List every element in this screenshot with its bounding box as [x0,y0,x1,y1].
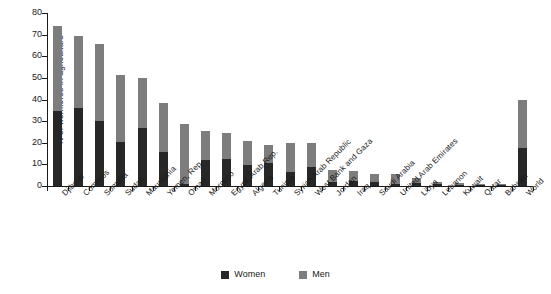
y-tick-label: 60 [22,51,42,60]
bar-segment-women[interactable] [159,152,168,186]
bar-group[interactable] [286,143,295,186]
bar-group[interactable] [201,131,210,186]
stacked-bar-chart: % of workforce in agriculture 0102030405… [0,0,551,294]
legend-label: Men [312,270,330,279]
bar-group[interactable] [95,44,104,186]
bar-segment-women[interactable] [243,165,252,186]
x-tick-mark [174,187,175,191]
bar-segment-men[interactable] [264,145,273,163]
bar-group[interactable] [455,183,464,186]
x-tick-mark [470,187,471,191]
bar-segment-men[interactable] [243,141,252,166]
bar-segment-women[interactable] [201,160,210,186]
bar-group[interactable] [518,100,527,187]
legend-color-swatch [221,271,229,279]
bar-group[interactable] [74,36,83,186]
legend-label: Women [234,270,265,279]
bar-segment-women[interactable] [264,163,273,186]
bar-group[interactable] [370,174,379,186]
bar-segment-women[interactable] [138,128,147,186]
y-tick-label-wrap: 30 [18,121,42,122]
bar-segment-women[interactable] [455,185,464,186]
bar-segment-men[interactable] [222,133,231,159]
bar-group[interactable] [307,143,316,186]
x-tick-mark [406,187,407,191]
x-tick-mark [68,187,69,191]
bar-segment-men[interactable] [370,174,379,182]
bar-group[interactable] [349,171,358,186]
bar-group[interactable] [222,133,231,186]
bar-segment-men[interactable] [201,131,210,160]
bar-group[interactable] [264,145,273,186]
bar-group[interactable] [497,184,506,186]
x-tick-mark [491,187,492,191]
y-tick-mark [42,143,47,144]
bar-segment-women[interactable] [222,159,231,186]
legend-item[interactable]: Women [221,270,265,279]
y-tick-label: 50 [22,73,42,82]
bar-group[interactable] [138,78,147,186]
bar-group[interactable] [412,178,421,186]
x-tick-mark [279,187,280,191]
bar-segment-women[interactable] [180,184,189,186]
x-tick-mark [237,187,238,191]
x-tick-mark [512,187,513,191]
bar-segment-men[interactable] [391,174,400,184]
x-tick-mark [258,187,259,191]
bar-group[interactable] [328,170,337,186]
bar-group[interactable] [243,141,252,186]
bar-segment-women[interactable] [307,167,316,186]
x-tick-mark [301,187,302,191]
bar-segment-women[interactable] [391,184,400,186]
bar-segment-women[interactable] [370,182,379,186]
bar-segment-women[interactable] [116,142,125,186]
y-tick-label-wrap: 40 [18,100,42,101]
bar-segment-men[interactable] [518,100,527,149]
bar-segment-women[interactable] [286,172,295,186]
bar-segment-women[interactable] [433,184,442,186]
y-tick-label-wrap: 70 [18,35,42,36]
bar-group[interactable] [391,174,400,186]
bar-group[interactable] [159,103,168,186]
bar-segment-men[interactable] [53,26,62,111]
x-tick-mark [322,187,323,191]
bar-segment-women[interactable] [518,148,527,186]
bar-segment-men[interactable] [95,44,104,121]
bar-group[interactable] [53,26,62,186]
bar-segment-women[interactable] [328,182,337,186]
y-tick-mark [42,35,47,36]
y-tick-label-wrap: 0 [18,186,42,187]
y-tick-mark [42,78,47,79]
y-tick-label: 70 [22,30,42,39]
bar-segment-men[interactable] [159,103,168,153]
y-axis-line [47,13,48,187]
bar-segment-men[interactable] [349,171,358,181]
bar-segment-men[interactable] [138,78,147,128]
bar-group[interactable] [476,184,485,186]
bar-segment-women[interactable] [476,185,485,186]
legend-item[interactable]: Men [299,270,330,279]
bar-segment-men[interactable] [328,170,337,182]
bar-segment-women[interactable] [349,181,358,186]
bar-segment-men[interactable] [180,124,189,183]
x-tick-mark [110,187,111,191]
y-tick-mark [42,121,47,122]
legend-color-swatch [299,271,307,279]
bar-segment-men[interactable] [286,143,295,172]
bar-segment-men[interactable] [307,143,316,167]
x-tick-mark [427,187,428,191]
bar-group[interactable] [116,75,125,186]
bar-segment-women[interactable] [53,111,62,186]
bar-segment-men[interactable] [116,75,125,142]
y-tick-mark [42,56,47,57]
bar-segment-women[interactable] [95,121,104,186]
bar-group[interactable] [433,182,442,186]
bar-segment-women[interactable] [497,185,506,186]
x-tick-mark [153,187,154,191]
bar-segment-men[interactable] [74,36,83,108]
bar-segment-women[interactable] [74,108,83,186]
bar-segment-women[interactable] [412,183,421,186]
y-tick-label-wrap: 20 [18,143,42,144]
bar-group[interactable] [180,124,189,186]
y-tick-mark [42,13,47,14]
